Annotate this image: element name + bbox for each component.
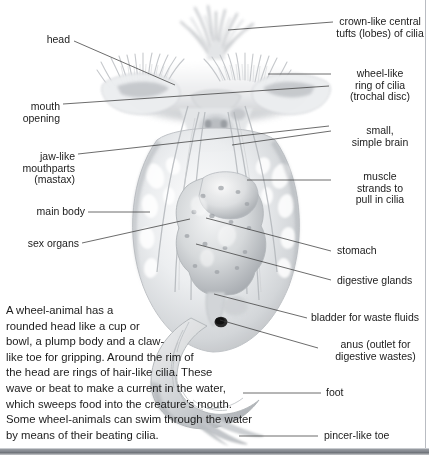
label-main-body-line1: main body [0, 206, 85, 218]
label-crown-line2: tufts (lobes) of cilia [335, 28, 425, 40]
label-pincer-like-toe: pincer-like toe [324, 430, 424, 442]
label-anus: anus (outlet for digestive wastes) [324, 339, 427, 362]
label-main-body: main body [0, 206, 85, 218]
label-muscle-line3: pull in cilia [335, 194, 425, 206]
label-foot-line1: foot [326, 387, 386, 399]
label-muscle-line1: muscle [335, 171, 425, 183]
label-wheel-line1: wheel-like [335, 68, 425, 80]
label-mouth-opening-line1: mouth [0, 101, 60, 113]
caption-line-4: like toe for gripping. Around the rim of [6, 350, 264, 366]
label-muscle-strands: muscle strands to pull in cilia [335, 171, 425, 206]
caption-line-2: rounded head like a cup or [6, 319, 264, 335]
label-stomach-line1: stomach [337, 245, 427, 257]
label-digestive-glands: digestive glands [337, 275, 429, 287]
label-mouthparts-line1: jaw-like [0, 151, 75, 163]
caption-line-5: the head are rings of hair-like cilia. T… [6, 365, 264, 381]
label-crown-line1: crown-like central [335, 16, 425, 28]
label-wheel-line3: (trochal disc) [335, 91, 425, 103]
label-mouth-opening: mouth opening [0, 101, 60, 124]
caption-line-7: which sweeps food into the creature’s mo… [6, 397, 264, 413]
label-bladder: bladder for waste fluids [311, 312, 429, 324]
caption-text: A wheel-animal has a rounded head like a… [6, 303, 264, 443]
caption-line-1: A wheel-animal has a [6, 303, 264, 319]
caption-line-9: by means of their beating cilia. [6, 428, 264, 444]
page-border-bottom-band [0, 449, 429, 455]
label-sex-organs-line1: sex organs [0, 238, 79, 250]
label-stomach: stomach [337, 245, 427, 257]
label-mouthparts-line3: (mastax) [0, 174, 75, 186]
label-head: head [0, 34, 70, 46]
figure-page: head mouth opening jaw-like mouthparts (… [0, 0, 429, 459]
label-sex-organs: sex organs [0, 238, 79, 250]
label-digestive-glands-line1: digestive glands [337, 275, 429, 287]
label-wheel-like-ring-of-cilia: wheel-like ring of cilia (trochal disc) [335, 68, 425, 103]
label-brain-line1: small, [335, 125, 425, 137]
caption-line-3: bowl, a plump body and a claw- [6, 334, 264, 350]
label-brain-line2: simple brain [335, 137, 425, 149]
label-simple-brain: small, simple brain [335, 125, 425, 148]
label-bladder-line1: bladder for waste fluids [311, 312, 429, 324]
label-crown-like-tufts: crown-like central tufts (lobes) of cili… [335, 16, 425, 39]
caption-line-8: Some wheel-animals can swim through the … [6, 412, 264, 428]
label-pincer-toe-line1: pincer-like toe [324, 430, 424, 442]
label-foot: foot [326, 387, 386, 399]
page-border-right [425, 0, 426, 449]
label-jaw-like-mouthparts: jaw-like mouthparts (mastax) [0, 151, 75, 186]
label-anus-line2: digestive wastes) [324, 351, 427, 363]
apical-tufts [181, 6, 253, 60]
label-anus-line1: anus (outlet for [324, 339, 427, 351]
label-head-line1: head [0, 34, 70, 46]
caption-line-6: wave or beat to make a current in the wa… [6, 381, 264, 397]
label-mouth-opening-line2: opening [0, 113, 60, 125]
